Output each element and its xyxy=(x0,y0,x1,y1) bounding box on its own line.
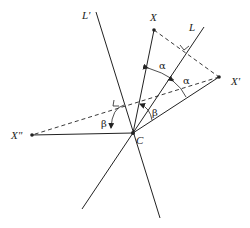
right-angle-marker-l-prime xyxy=(113,100,119,106)
reflection-diagram: L' L X X' X" C α α β β xyxy=(0,0,250,228)
label-x-prime: X' xyxy=(230,75,241,87)
point-x-prime xyxy=(217,75,221,79)
right-angle-marker-l xyxy=(180,45,189,50)
point-c xyxy=(131,131,135,135)
label-x: X xyxy=(149,11,158,23)
label-x-double-prime: X" xyxy=(10,129,23,141)
label-c: C xyxy=(136,134,144,146)
segment-c-x-prime xyxy=(133,77,219,133)
point-x-double-prime xyxy=(30,133,34,137)
label-alpha-1: α xyxy=(159,60,166,71)
label-beta-1: β xyxy=(152,107,158,118)
point-x xyxy=(152,28,156,32)
label-alpha-2: α xyxy=(183,75,190,86)
beta-arc-2 xyxy=(111,105,124,128)
label-l-prime: L' xyxy=(81,9,91,21)
segment-c-x-double-prime xyxy=(32,133,133,135)
label-beta-2: β xyxy=(101,118,107,129)
label-l: L xyxy=(188,21,195,33)
